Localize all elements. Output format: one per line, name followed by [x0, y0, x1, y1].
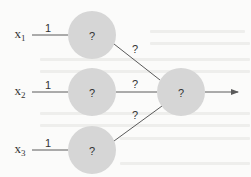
- hidden-node-1-label: ?: [89, 31, 95, 42]
- input-subscript: 1: [21, 33, 26, 43]
- hidden-node-2-label: ?: [89, 88, 95, 99]
- weight-h1-out: ?: [132, 44, 138, 55]
- network-graph: [0, 0, 251, 177]
- input-weight-1: 1: [45, 23, 51, 34]
- input-subscript: 2: [21, 90, 26, 100]
- input-subscript: 3: [21, 148, 26, 158]
- neural-network-diagram: x1 x2 x3 1 1 1 ? ? ? ? ? ? ?: [0, 0, 251, 177]
- output-node-label: ?: [178, 88, 184, 99]
- hidden-node-3-label: ?: [89, 146, 95, 157]
- weight-h3-out: ?: [132, 110, 138, 121]
- input-weight-3: 1: [45, 138, 51, 149]
- input-label-x2: x2: [15, 85, 26, 101]
- input-label-x3: x3: [15, 143, 26, 159]
- input-weight-2: 1: [45, 80, 51, 91]
- input-label-x1: x1: [15, 28, 26, 44]
- weight-h2-out: ?: [132, 79, 138, 90]
